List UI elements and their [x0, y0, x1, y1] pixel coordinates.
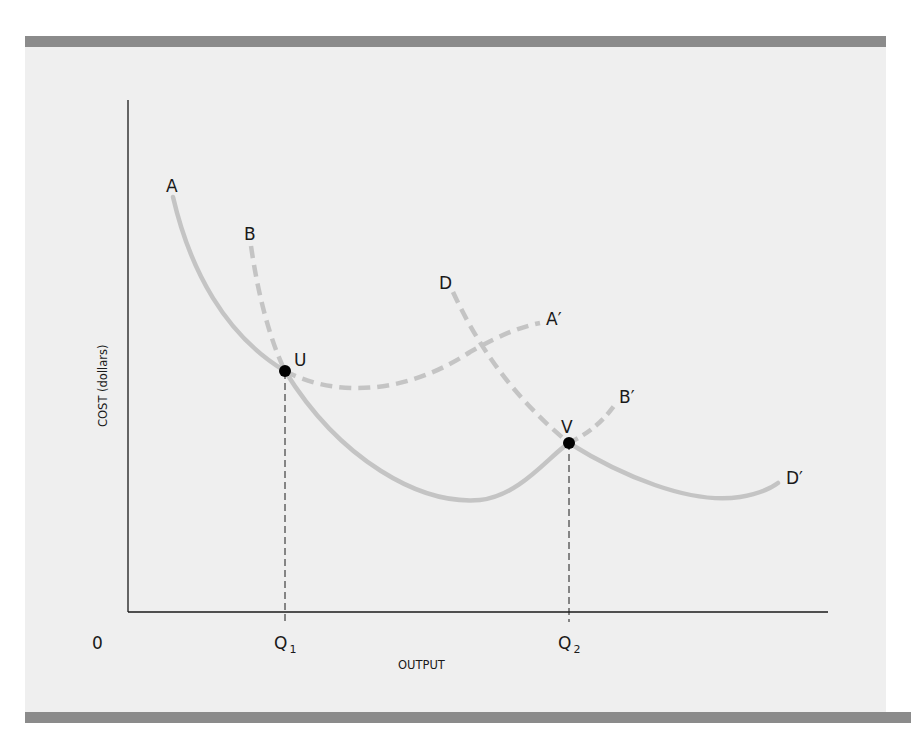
label-d: D	[439, 273, 452, 293]
label-b: B	[244, 224, 256, 244]
y-axis-label: COST (dollars)	[96, 344, 110, 427]
label-a: A	[166, 176, 178, 196]
q1-subscript: 1	[289, 643, 296, 656]
label-d-prime: D′	[786, 468, 803, 488]
q2-subscript: 2	[573, 643, 580, 656]
point-v	[563, 437, 575, 449]
label-u: U	[294, 350, 306, 370]
x-tick-q2: Q2	[558, 633, 580, 656]
cost-curves-diagram: A B D A′ B′ D′ U V 0 Q1 Q2 OUTPUT COST (…	[0, 0, 911, 740]
curve-b-solid	[285, 371, 569, 500]
curve-b-dashed-right	[569, 406, 614, 443]
curve-a-dashed	[285, 323, 540, 388]
point-u	[279, 365, 291, 377]
x-tick-q1: Q1	[274, 633, 296, 656]
curve-d-solid	[569, 443, 778, 498]
label-v: V	[561, 417, 573, 437]
label-a-prime: A′	[546, 309, 562, 329]
x-axis-label: OUTPUT	[398, 658, 446, 672]
label-b-prime: B′	[619, 387, 635, 407]
origin-label: 0	[92, 633, 103, 653]
curve-a-solid	[173, 197, 285, 371]
